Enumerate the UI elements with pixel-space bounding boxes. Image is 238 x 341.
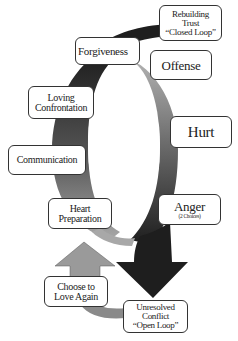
node-label: Love Again — [54, 292, 98, 302]
node-communication: Communication — [8, 145, 86, 175]
node-sublabel: (2 Choices) — [178, 214, 200, 220]
node-label: Anger — [174, 200, 205, 213]
node-label: Preparation — [59, 214, 102, 224]
node-label: “Open Loop” — [133, 321, 178, 330]
node-label: Forgiveness — [78, 46, 128, 57]
node-label: Offense — [162, 59, 201, 72]
node-label: “Closed Loop” — [165, 28, 215, 37]
node-anger: Anger (2 Choices) — [158, 194, 221, 225]
up-arrow — [55, 242, 115, 280]
node-label: Heart — [70, 204, 91, 214]
node-choose-to-love-again: Choose to Love Again — [44, 276, 108, 307]
node-label: Choose to — [57, 282, 95, 292]
node-label: Loving — [47, 93, 74, 103]
node-label: Confrontation — [35, 103, 87, 113]
node-label: Communication — [17, 155, 78, 165]
node-label: Hurt — [188, 125, 214, 140]
node-heart-preparation: Heart Preparation — [48, 198, 112, 229]
down-arrow — [116, 222, 188, 298]
node-hurt: Hurt — [170, 116, 232, 148]
node-loving-confrontation: Loving Confrontation — [28, 86, 94, 119]
node-rebuilding-trust: Rebuilding Trust “Closed Loop” — [159, 5, 222, 41]
node-unresolved-conflict: Unresolved Conflict “Open Loop” — [123, 300, 188, 333]
node-offense: Offense — [150, 50, 212, 80]
node-forgiveness: Forgiveness — [75, 37, 140, 65]
